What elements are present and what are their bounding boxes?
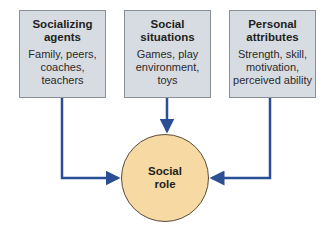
box-description: Family, peers, coaches, teachers [20, 48, 105, 87]
arrow-agents-to-role [62, 98, 118, 178]
social-role-circle: Social role [121, 134, 209, 222]
description-line: Strength, skill, [230, 48, 315, 61]
box-description: Strength, skill, motivation, perceived a… [230, 48, 315, 87]
box-title: Socializing agents [20, 18, 105, 44]
description-line: coaches, [20, 61, 105, 74]
social-role-label: Social role [148, 165, 182, 191]
box-social-situations: Social situations Games, play environmen… [124, 10, 211, 98]
description-line: toys [125, 74, 210, 87]
box-description: Games, play environment, toys [125, 48, 210, 87]
title-line: Social [125, 18, 210, 31]
title-line: Socializing [20, 18, 105, 31]
label-line: Social [148, 165, 182, 178]
description-line: environment, [125, 61, 210, 74]
box-title: Social situations [125, 18, 210, 44]
title-line: agents [20, 31, 105, 44]
description-line: Family, peers, [20, 48, 105, 61]
description-line: perceived ability [230, 74, 315, 87]
box-title: Personal attributes [230, 18, 315, 44]
label-line: role [148, 178, 182, 191]
description-line: Games, play [125, 48, 210, 61]
box-socializing-agents: Socializing agents Family, peers, coache… [19, 10, 106, 98]
box-personal-attributes: Personal attributes Strength, skill, mot… [229, 10, 316, 98]
title-line: Personal [230, 18, 315, 31]
description-line: teachers [20, 74, 105, 87]
description-line: motivation, [230, 61, 315, 74]
arrow-attributes-to-role [212, 98, 270, 178]
title-line: attributes [230, 31, 315, 44]
title-line: situations [125, 31, 210, 44]
